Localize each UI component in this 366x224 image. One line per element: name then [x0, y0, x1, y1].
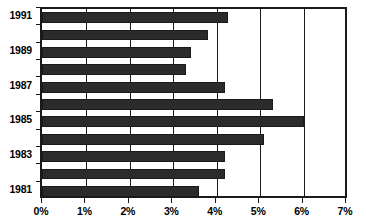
bar-1986 — [42, 99, 273, 110]
category-label-1981: 1981 — [9, 184, 32, 195]
bar-1981 — [42, 186, 199, 197]
value-label-5pct: 5% — [251, 205, 266, 217]
value-tick-4pct — [215, 198, 216, 203]
bar-1989 — [42, 47, 191, 58]
category-label-1983: 1983 — [9, 149, 32, 160]
value-label-4pct: 4% — [207, 205, 222, 217]
bar-1988 — [42, 64, 186, 75]
value-label-0pct: 0% — [34, 205, 49, 217]
value-tick-5pct — [258, 198, 259, 203]
value-axis-labels: 0%1%2%3%4%5%6%7% — [0, 205, 366, 221]
value-label-6pct: 6% — [294, 205, 309, 217]
value-axis-ticks — [40, 198, 347, 204]
value-label-1pct: 1% — [77, 205, 92, 217]
value-tick-3pct — [171, 198, 172, 203]
plot-area — [40, 7, 347, 198]
bar-1987 — [42, 82, 225, 93]
bar-1984 — [42, 134, 264, 145]
bar-1982 — [42, 169, 225, 180]
category-label-1987: 1987 — [9, 80, 32, 91]
category-axis-labels: 199119891987198519831981 — [0, 7, 36, 198]
category-label-1989: 1989 — [9, 45, 32, 56]
bar-1985 — [42, 116, 304, 127]
value-label-7pct: 7% — [338, 205, 353, 217]
value-label-3pct: 3% — [164, 205, 179, 217]
bar-1991 — [42, 12, 228, 23]
bar-chart: 199119891987198519831981 0%1%2%3%4%5%6%7… — [0, 0, 366, 224]
value-tick-6pct — [302, 198, 303, 203]
value-tick-2pct — [128, 198, 129, 203]
category-label-1985: 1985 — [9, 114, 32, 125]
category-label-1991: 1991 — [9, 10, 32, 21]
value-tick-1pct — [84, 198, 85, 203]
value-tick-0pct — [41, 198, 42, 203]
value-tick-7pct — [345, 198, 346, 203]
bar-1990 — [42, 30, 208, 41]
value-label-2pct: 2% — [120, 205, 135, 217]
bar-1983 — [42, 151, 225, 162]
bar-series — [42, 9, 345, 196]
